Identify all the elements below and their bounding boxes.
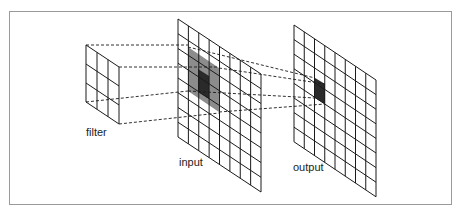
filter-label: filter <box>86 126 107 138</box>
output-label: output <box>293 161 324 173</box>
filter-grid <box>86 45 119 124</box>
output-highlighted-cell <box>315 78 325 104</box>
convolution-diagram: filter input output <box>0 0 459 219</box>
input-label: input <box>179 156 203 168</box>
